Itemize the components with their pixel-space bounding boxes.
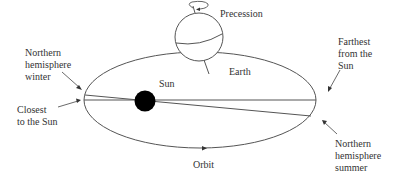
arrow-farthest-icon bbox=[328, 70, 340, 92]
sun-label: Sun bbox=[159, 78, 175, 90]
precession-arrow-icon bbox=[189, 1, 208, 11]
precession-label: Precession bbox=[220, 8, 263, 20]
northern-hemisphere-winter-label: Northern hemisphere winter bbox=[25, 47, 71, 83]
solstice-line bbox=[85, 95, 311, 116]
arrow-nh-summer-icon bbox=[322, 120, 337, 134]
sun-icon bbox=[135, 91, 156, 112]
earth-label: Earth bbox=[229, 66, 251, 78]
orbit-label: Orbit bbox=[193, 159, 214, 171]
orbit-direction-arrow-icon bbox=[202, 146, 207, 150]
farthest-from-sun-label: Farthest from the Sun bbox=[338, 36, 372, 72]
arrow-closest-icon bbox=[58, 99, 81, 108]
northern-hemisphere-summer-label: Northern hemisphere summer bbox=[335, 138, 381, 174]
closest-to-sun-label: Closest to the Sun bbox=[17, 104, 58, 128]
earth-icon bbox=[175, 6, 223, 74]
